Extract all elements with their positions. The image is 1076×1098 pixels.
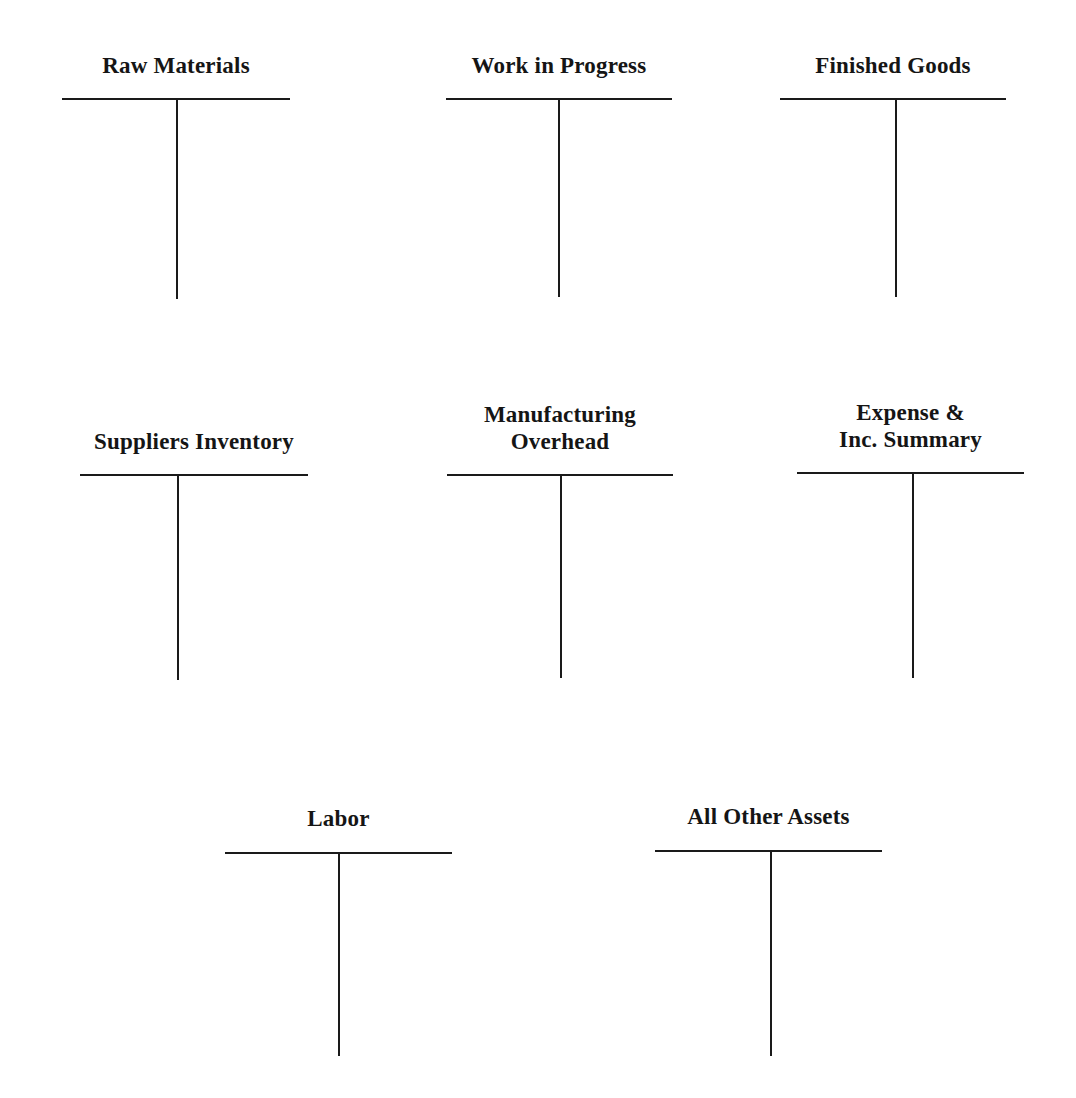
t-account-title-all-other-assets: All Other Assets bbox=[655, 803, 882, 830]
t-account-vertical-stem-expense-inc-summary bbox=[912, 472, 914, 678]
t-account-manufacturing-overhead: Manufacturing Overhead bbox=[447, 0, 673, 1098]
t-account-all-other-assets: All Other Assets bbox=[655, 0, 882, 1098]
t-account-labor: Labor bbox=[225, 0, 452, 1098]
t-account-vertical-stem-labor bbox=[338, 852, 340, 1056]
t-account-vertical-stem-manufacturing-overhead bbox=[560, 474, 562, 678]
t-account-title-labor: Labor bbox=[225, 805, 452, 832]
t-account-title-manufacturing-overhead: Manufacturing Overhead bbox=[447, 401, 673, 455]
t-account-vertical-stem-suppliers-inventory bbox=[177, 474, 179, 680]
t-accounts-diagram: Raw MaterialsWork in ProgressFinished Go… bbox=[0, 0, 1076, 1098]
t-account-vertical-stem-all-other-assets bbox=[770, 850, 772, 1056]
t-account-horizontal-rule-all-other-assets bbox=[655, 850, 882, 852]
